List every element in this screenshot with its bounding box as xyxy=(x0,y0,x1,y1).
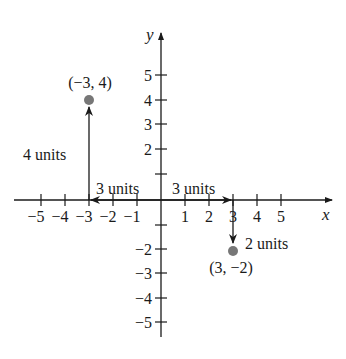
point-label-neg3-4: (−3, 4) xyxy=(68,74,112,92)
svg-text:−5: −5 xyxy=(135,314,152,331)
svg-text:3: 3 xyxy=(144,116,152,133)
svg-text:4: 4 xyxy=(253,208,261,225)
svg-text:−4: −4 xyxy=(51,208,68,225)
svg-text:−2: −2 xyxy=(135,241,152,258)
label-4-units: 4 units xyxy=(23,146,66,163)
label-left-3-units: 3 units xyxy=(96,180,139,197)
point-label-3-neg2: (3, −2) xyxy=(209,259,253,277)
svg-text:5: 5 xyxy=(144,67,152,84)
coordinate-plane: x y −5 −4 −3 −2 −1 1 2 3 4 5 xyxy=(0,0,346,359)
svg-text:−5: −5 xyxy=(27,208,44,225)
point-3-neg2 xyxy=(228,246,238,256)
point-neg3-4 xyxy=(84,95,94,105)
label-right-3-units: 3 units xyxy=(172,180,215,197)
svg-text:−4: −4 xyxy=(135,290,152,307)
svg-text:5: 5 xyxy=(277,208,285,225)
svg-text:1: 1 xyxy=(181,208,189,225)
svg-text:2: 2 xyxy=(205,208,213,225)
label-2-units: 2 units xyxy=(245,235,288,252)
x-tick-labels: −5 −4 −3 −2 −1 1 2 3 4 5 xyxy=(27,208,285,225)
svg-text:2: 2 xyxy=(144,141,152,158)
svg-text:−3: −3 xyxy=(75,208,92,225)
x-axis-label: x xyxy=(321,205,330,224)
svg-text:−2: −2 xyxy=(99,208,116,225)
svg-text:4: 4 xyxy=(144,92,152,109)
svg-text:−3: −3 xyxy=(135,265,152,282)
svg-text:−1: −1 xyxy=(123,208,140,225)
y-axis-label: y xyxy=(144,25,154,44)
